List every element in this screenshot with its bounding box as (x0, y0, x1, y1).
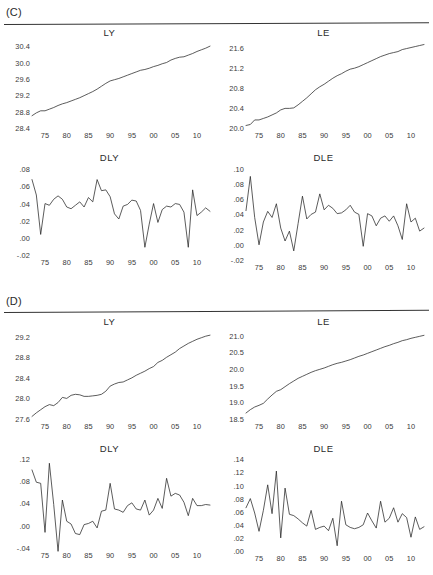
x-tick-label: 80 (276, 554, 284, 563)
x-tick-label: 05 (171, 422, 179, 431)
y-tick-label: .00 (19, 233, 30, 242)
x-tick-label: 90 (106, 131, 114, 140)
y-tick-label: 20.4 (229, 103, 244, 112)
chart-d-le-series-svg (246, 329, 424, 419)
x-tick-label: 95 (342, 263, 350, 272)
y-tick-label: 28.8 (15, 353, 30, 362)
y-tick-label: .12 (233, 468, 244, 477)
y-tick-label: -.04 (17, 544, 30, 553)
chart-d-dly-yaxis: -.04.00.04.08.12 (4, 456, 30, 548)
y-tick-label: 21.6 (229, 43, 244, 52)
chart-c-le-plot (246, 40, 424, 128)
chart-d-dly-series-svg (32, 456, 210, 548)
panel-c-divider (4, 22, 429, 25)
y-tick-label: 28.4 (15, 373, 30, 382)
y-tick-label: 21.2 (229, 63, 244, 72)
chart-c-le-series-svg (246, 40, 424, 128)
x-tick-label: 75 (255, 554, 263, 563)
x-tick-label: 90 (320, 263, 328, 272)
chart-c-ly-title: LY (4, 27, 215, 38)
y-tick-label: 20.0 (229, 365, 244, 374)
y-tick-label: .10 (233, 481, 244, 490)
x-tick-label: 95 (342, 131, 350, 140)
y-tick-label: 30.0 (15, 58, 30, 67)
y-tick-label: .08 (19, 165, 30, 174)
x-tick-label: 90 (320, 131, 328, 140)
chart-c-dly-series-svg (32, 165, 210, 255)
x-tick-label: 75 (255, 422, 263, 431)
y-tick-label: 30.4 (15, 42, 30, 51)
x-tick-label: 00 (149, 551, 157, 560)
chart-c-dle: DLE -.02.00.02.04.06.08.10 7580859095000… (218, 152, 429, 272)
chart-d-ly: LY 27.628.028.428.829.2 7580859095000510 (4, 316, 215, 431)
x-tick-label: 80 (62, 422, 70, 431)
y-tick-label: 28.0 (15, 394, 30, 403)
x-tick-label: 90 (320, 554, 328, 563)
chart-d-dle-title: DLE (218, 443, 429, 454)
x-tick-label: 95 (342, 422, 350, 431)
chart-c-dly: DLY -.02.00.02.04.06.08 7580859095000510 (4, 152, 215, 272)
y-tick-label: 19.5 (229, 381, 244, 390)
chart-c-ly: LY 28.428.829.229.630.030.4 758085909500… (4, 27, 215, 142)
y-tick-label: 29.2 (15, 91, 30, 100)
x-tick-label: 85 (298, 422, 306, 431)
series-line (246, 471, 424, 546)
chart-c-ly-series-svg (32, 40, 210, 128)
chart-d-ly-title: LY (4, 316, 215, 327)
chart-d-dly-title: DLY (4, 443, 215, 454)
y-tick-label: .06 (233, 195, 244, 204)
x-tick-label: 95 (128, 551, 136, 560)
x-tick-label: 90 (320, 422, 328, 431)
x-tick-label: 80 (276, 422, 284, 431)
x-tick-label: 00 (149, 258, 157, 267)
chart-d-dly-plot (32, 456, 210, 548)
y-tick-label: .06 (19, 182, 30, 191)
y-tick-label: 20.5 (229, 348, 244, 357)
chart-c-dle-title: DLE (218, 152, 429, 163)
y-tick-label: 29.2 (15, 332, 30, 341)
chart-c-le-yaxis: 20.020.420.821.221.6 (218, 40, 244, 128)
y-tick-label: 28.4 (15, 124, 30, 133)
x-tick-label: 85 (298, 554, 306, 563)
x-tick-label: 00 (363, 554, 371, 563)
x-tick-label: 10 (407, 131, 415, 140)
y-tick-label: .14 (233, 455, 244, 464)
y-tick-label: .00 (19, 521, 30, 530)
y-tick-label: 21.0 (229, 331, 244, 340)
x-tick-label: 95 (128, 131, 136, 140)
chart-c-dle-series-svg (246, 165, 424, 260)
y-tick-label: .02 (19, 216, 30, 225)
panel-c: (C) LY 28.428.829.229.630.030.4 75808590… (0, 0, 433, 288)
x-tick-label: 75 (41, 551, 49, 560)
x-tick-label: 05 (385, 131, 393, 140)
x-tick-label: 80 (62, 258, 70, 267)
x-tick-label: 95 (342, 554, 350, 563)
y-tick-label: 29.6 (15, 74, 30, 83)
x-tick-label: 10 (407, 422, 415, 431)
x-tick-label: 05 (171, 551, 179, 560)
y-tick-label: 20.0 (229, 124, 244, 133)
x-tick-label: 10 (193, 422, 201, 431)
y-tick-label: .08 (233, 494, 244, 503)
series-line (32, 335, 210, 416)
x-tick-label: 00 (363, 422, 371, 431)
chart-c-le: LE 20.020.420.821.221.6 7580859095000510 (218, 27, 429, 142)
y-tick-label: 28.8 (15, 107, 30, 116)
chart-d-le-yaxis: 18.519.019.520.020.521.0 (218, 329, 244, 419)
y-tick-label: 18.5 (229, 415, 244, 424)
y-tick-label: .04 (233, 210, 244, 219)
y-tick-label: 19.0 (229, 398, 244, 407)
x-tick-label: 90 (106, 422, 114, 431)
x-tick-label: 05 (171, 131, 179, 140)
chart-d-ly-yaxis: 27.628.028.428.829.2 (4, 329, 30, 419)
x-tick-label: 80 (62, 551, 70, 560)
chart-d-ly-series-svg (32, 329, 210, 419)
chart-c-dle-yaxis: -.02.00.02.04.06.08.10 (218, 165, 244, 260)
series-line (246, 45, 424, 126)
series-line (32, 46, 210, 116)
y-tick-label: .04 (233, 520, 244, 529)
chart-c-dle-plot (246, 165, 424, 260)
x-tick-label: 80 (62, 131, 70, 140)
x-tick-label: 05 (171, 258, 179, 267)
x-tick-label: 00 (149, 131, 157, 140)
